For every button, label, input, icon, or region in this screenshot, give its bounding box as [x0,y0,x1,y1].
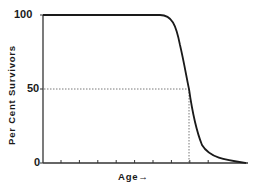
x-axis-label: Age→ [118,171,149,182]
y-tick-label-0: 0 [34,157,40,168]
y-axis-label: Per Cent Survivors [6,45,17,145]
y-tick-label-50: 50 [27,83,39,94]
y-tick-label-100: 100 [14,9,32,20]
